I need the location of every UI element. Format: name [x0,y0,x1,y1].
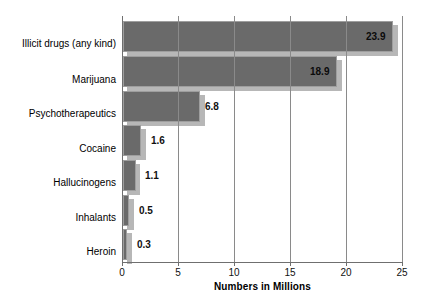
bar-value-heroin: 0.3 [137,239,151,250]
bar-illicit-drugs-any-kind [123,21,393,52]
bar-value-inhalants: 0.5 [139,205,153,216]
category-label-text: Illicit drugs (any kind) [22,38,116,49]
gridline-15 [290,16,291,262]
category-label-1: Marijuana [0,69,116,87]
bar-shadow-6 [127,233,132,264]
bar-value-marijuana: 18.9 [310,66,329,77]
tick-label-25: 25 [390,267,414,278]
bar-inhalants [123,195,129,226]
x-axis-line [122,262,403,263]
gridline-10 [234,16,235,262]
tick-mark-0 [122,262,123,266]
tick-label-10: 10 [222,267,246,278]
tick-label-0: 0 [110,267,134,278]
tick-label-20: 20 [334,267,358,278]
tick-mark-10 [234,262,235,266]
bar-value-hallucinogens: 1.1 [145,170,159,181]
bar-psychotherapeutics [123,91,200,122]
tick-mark-20 [346,262,347,266]
tick-label-15: 15 [278,267,302,278]
category-label-0: Illicit drugs (any kind) [0,33,116,51]
bar-heroin [123,229,127,260]
category-label-4: Hallucinogens [0,172,116,190]
bar-value-illicit-drugs-any-kind: 23.9 [366,31,385,42]
gridline-20 [346,16,347,262]
category-label-5: Inhalants [0,207,116,225]
y-axis-line [122,16,123,262]
category-label-3: Cocaine [0,138,116,156]
gridline-25 [402,16,403,262]
bar-hallucinogens [123,160,136,191]
category-label-text: Marijuana [72,74,116,85]
category-label-text: Heroin [87,246,116,257]
category-label-text: Hallucinogens [53,177,116,188]
bar-value-psychotherapeutics: 6.8 [205,101,219,112]
tick-label-5: 5 [166,267,190,278]
bar-value-cocaine: 1.6 [151,135,165,146]
category-label-text: Psychotherapeutics [29,108,116,119]
category-label-2: Psychotherapeutics [0,103,116,121]
category-label-text: Inhalants [75,212,116,223]
bar-cocaine [123,125,141,156]
tick-mark-25 [402,262,403,266]
bar-chart: Illicit drugs (any kind) Marijuana Psych… [0,0,426,300]
x-axis-title: Numbers in Millions [122,281,403,292]
category-label-6: Heroin [0,241,116,259]
category-label-text: Cocaine [79,143,116,154]
bar-marijuana [123,56,337,87]
tick-mark-5 [178,262,179,266]
gridline-5 [178,16,179,262]
tick-mark-15 [290,262,291,266]
